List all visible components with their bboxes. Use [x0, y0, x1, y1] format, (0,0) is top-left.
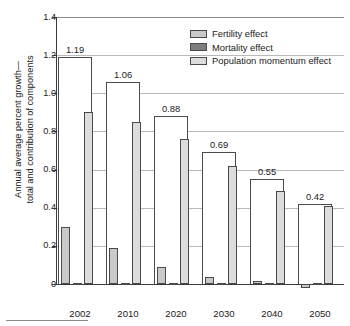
bar-mortality-2040	[265, 283, 274, 285]
legend-label: Population momentum effect	[212, 54, 331, 68]
bar-fertility-2010	[109, 248, 118, 284]
bar-momentum-2040	[276, 191, 285, 284]
bar-mortality-2030	[217, 283, 226, 285]
bar-mortality-2050	[313, 283, 322, 285]
chart-title	[60, 0, 340, 5]
chart-legend: Fertility effectMortality effectPopulati…	[190, 27, 331, 68]
total-value-label-2050: 0.42	[295, 192, 335, 202]
bar-mortality-2002	[73, 283, 82, 285]
total-value-label-2040: 0.55	[247, 167, 287, 177]
x-axis-tick-label-2050: 2050	[296, 308, 344, 319]
bar-fertility-2002	[61, 227, 70, 284]
total-value-label-2010: 1.06	[103, 70, 143, 80]
bar-fertility-2040	[253, 281, 262, 284]
gridline	[56, 131, 344, 132]
legend-item-2: Population momentum effect	[190, 54, 331, 68]
bar-momentum-2050	[324, 206, 333, 284]
bar-momentum-2010	[132, 122, 141, 284]
legend-swatch-icon	[190, 30, 207, 38]
total-value-label-2002: 1.19	[55, 45, 95, 55]
legend-swatch-icon	[190, 43, 207, 51]
bar-mortality-2010	[121, 283, 130, 285]
x-axis-tick-label-2010: 2010	[104, 308, 152, 319]
bar-fertility-2020	[157, 267, 166, 284]
y-axis-line	[56, 17, 57, 285]
legend-label: Fertility effect	[212, 27, 268, 41]
bar-momentum-2002	[84, 112, 93, 284]
x-axis-tick-label-2002: 2002	[56, 308, 104, 319]
y-axis-tick-labels: 00.20.40.60.81.01.21.4	[22, 17, 56, 285]
gridline	[56, 170, 344, 171]
chart-figure: Annual average percent growth— total and…	[0, 0, 350, 326]
x-axis-tick-label-2030: 2030	[200, 308, 248, 319]
bar-momentum-2020	[180, 139, 189, 284]
bar-fertility-2030	[205, 277, 214, 284]
x-axis-tick-label-2020: 2020	[152, 308, 200, 319]
bar-fertility-2050	[301, 284, 310, 288]
legend-label: Mortality effect	[212, 41, 273, 55]
bar-mortality-2020	[169, 283, 178, 285]
total-value-label-2030: 0.69	[199, 140, 239, 150]
legend-swatch-icon	[190, 57, 207, 65]
bar-momentum-2030	[228, 166, 237, 284]
footer-rule	[6, 320, 88, 321]
legend-item-0: Fertility effect	[190, 27, 331, 41]
gridline	[56, 17, 344, 18]
total-value-label-2020: 0.88	[151, 104, 191, 114]
gridline	[56, 93, 344, 94]
x-axis-tick-label-2040: 2040	[248, 308, 296, 319]
legend-item-1: Mortality effect	[190, 41, 331, 55]
